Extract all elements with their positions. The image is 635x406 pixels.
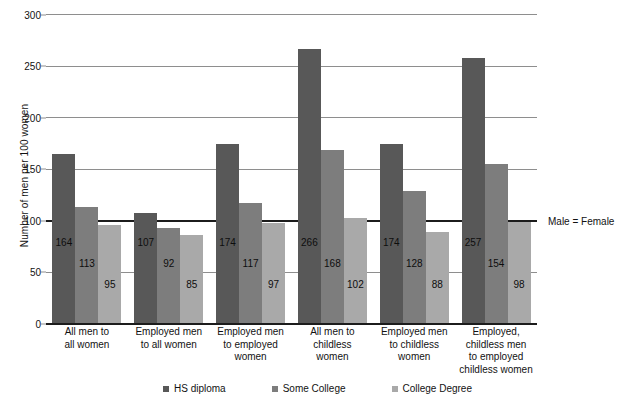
legend-label: College Degree bbox=[403, 383, 473, 394]
x-axis-category-label: Employed mento employedwomen bbox=[210, 326, 292, 376]
bar-group: 16411395 bbox=[46, 14, 128, 323]
bar[interactable]: 97 bbox=[262, 223, 285, 323]
bar-group: 266168102 bbox=[291, 14, 373, 323]
bar[interactable]: 98 bbox=[508, 222, 531, 323]
bar-value-label: 113 bbox=[79, 259, 95, 269]
bar-value-label: 154 bbox=[488, 259, 505, 269]
bar-group: 25715498 bbox=[455, 14, 537, 323]
bar-value-label: 102 bbox=[347, 280, 364, 290]
bar[interactable]: 154 bbox=[485, 164, 508, 323]
bar-value-label: 266 bbox=[301, 238, 318, 248]
bar-value-label: 95 bbox=[104, 280, 115, 290]
bar[interactable]: 92 bbox=[157, 228, 180, 323]
bar[interactable]: 113 bbox=[75, 207, 98, 323]
bar[interactable]: 266 bbox=[298, 49, 321, 323]
x-axis-category-labels: All men toall womenEmployed mento all wo… bbox=[46, 326, 537, 376]
plot-area: 050100150200250300 164113951079285174117… bbox=[46, 14, 537, 323]
bar-value-label: 88 bbox=[432, 280, 443, 290]
bar-value-label: 107 bbox=[137, 238, 154, 248]
bar-value-label: 257 bbox=[465, 238, 482, 248]
bar-group: 17411797 bbox=[210, 14, 292, 323]
bar[interactable]: 107 bbox=[134, 213, 157, 323]
bar[interactable]: 174 bbox=[380, 144, 403, 323]
x-axis-category-label: All men tochildlesswomen bbox=[291, 326, 373, 376]
bar-value-label: 174 bbox=[383, 238, 400, 248]
legend-label: HS diploma bbox=[174, 383, 226, 394]
y-tick-label: 100 bbox=[24, 215, 41, 226]
y-tick-label: 300 bbox=[24, 9, 41, 20]
bar-value-label: 128 bbox=[406, 259, 423, 269]
legend-item[interactable]: College Degree bbox=[392, 383, 473, 394]
bar[interactable]: 168 bbox=[321, 150, 344, 323]
bar[interactable]: 164 bbox=[52, 154, 75, 323]
y-tick-label: 0 bbox=[35, 318, 41, 329]
y-tick-label: 200 bbox=[24, 112, 41, 123]
y-tick-mark bbox=[41, 323, 46, 324]
bar-value-label: 98 bbox=[513, 280, 524, 290]
legend-swatch-icon bbox=[272, 386, 278, 392]
bar-value-label: 168 bbox=[324, 259, 341, 269]
bar[interactable]: 257 bbox=[462, 58, 485, 323]
bar[interactable]: 102 bbox=[344, 218, 367, 323]
bar[interactable]: 128 bbox=[403, 191, 426, 323]
x-axis-category-label: Employed,childless mento employedchildle… bbox=[455, 326, 537, 376]
y-tick-label: 250 bbox=[24, 61, 41, 72]
bar[interactable]: 117 bbox=[239, 203, 262, 324]
chart-legend: HS diplomaSome CollegeCollege Degree bbox=[0, 383, 635, 394]
bar-value-label: 117 bbox=[243, 259, 259, 269]
legend-swatch-icon bbox=[392, 386, 398, 392]
legend-item[interactable]: Some College bbox=[272, 383, 346, 394]
y-tick-label: 150 bbox=[24, 164, 41, 175]
bar-value-label: 92 bbox=[163, 259, 174, 269]
x-axis-category-label: Employed mento childlesswomen bbox=[373, 326, 455, 376]
bar-value-label: 97 bbox=[268, 280, 279, 290]
bar-groups: 1641139510792851741179726616810217412888… bbox=[46, 14, 537, 323]
bar-group: 17412888 bbox=[373, 14, 455, 323]
bar[interactable]: 95 bbox=[98, 225, 121, 323]
bar[interactable]: 88 bbox=[426, 232, 449, 323]
bar-group: 1079285 bbox=[128, 14, 210, 323]
legend-item[interactable]: HS diploma bbox=[163, 383, 226, 394]
bar[interactable]: 174 bbox=[216, 144, 239, 323]
x-axis-category-label: All men toall women bbox=[46, 326, 128, 376]
legend-swatch-icon bbox=[163, 386, 169, 392]
bar-value-label: 174 bbox=[219, 238, 236, 248]
x-axis-line: 0 bbox=[46, 323, 537, 325]
parity-annotation-label: Male = Female bbox=[548, 216, 614, 227]
bar-chart: Number of men per 100 women 050100150200… bbox=[0, 0, 635, 406]
y-tick-label: 50 bbox=[30, 267, 41, 278]
bar[interactable]: 85 bbox=[180, 235, 203, 323]
legend-label: Some College bbox=[283, 383, 346, 394]
y-axis-title: Number of men per 100 women bbox=[19, 76, 30, 276]
bar-value-label: 164 bbox=[56, 238, 73, 248]
x-axis-category-label: Employed mento all women bbox=[128, 326, 210, 376]
bar-value-label: 85 bbox=[186, 280, 197, 290]
